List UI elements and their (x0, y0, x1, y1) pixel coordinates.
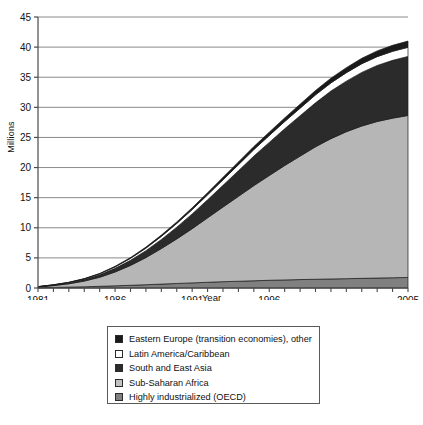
y-tick-label: 35 (20, 72, 32, 83)
y-tick-label: 15 (20, 192, 32, 203)
y-tick-label: 25 (20, 132, 32, 143)
legend-swatch-icon (115, 393, 123, 401)
y-tick-label: 10 (20, 222, 32, 233)
legend-item-label: Eastern Europe (transition economies), o… (129, 334, 312, 344)
legend-item-label: Latin America/Caribbean (129, 349, 230, 359)
y-tick-label: 5 (25, 252, 31, 263)
y-tick-label: 45 (20, 12, 32, 23)
legend-item-label: Sub-Saharan Africa (129, 378, 209, 388)
legend-item: Eastern Europe (transition economies), o… (115, 332, 313, 346)
legend-item: Latin America/Caribbean (115, 347, 313, 361)
legend-item-label: Highly industrialized (OECD) (129, 392, 246, 402)
chart-legend: Eastern Europe (transition economies), o… (107, 326, 320, 404)
legend-item: South and East Asia (115, 361, 313, 375)
chart-page: 05101520253035404519811986199119962005 M… (0, 0, 423, 425)
legend-item: Sub-Saharan Africa (115, 376, 313, 390)
y-tick-label: 30 (20, 102, 32, 113)
legend-swatch-icon (115, 335, 123, 343)
legend-item: Highly industrialized (OECD) (115, 390, 313, 404)
stacked-area-chart: 05101520253035404519811986199119962005 (0, 0, 423, 300)
legend-swatch-icon (115, 364, 123, 372)
legend-swatch-icon (115, 379, 123, 387)
y-tick-label: 40 (20, 42, 32, 53)
x-axis-label: Year (0, 292, 423, 303)
y-tick-label: 20 (20, 162, 32, 173)
y-axis-label: Millions (6, 102, 16, 172)
legend-item-label: South and East Asia (129, 363, 212, 373)
legend-swatch-icon (115, 350, 123, 358)
plot-area: 05101520253035404519811986199119962005 M… (0, 0, 423, 300)
